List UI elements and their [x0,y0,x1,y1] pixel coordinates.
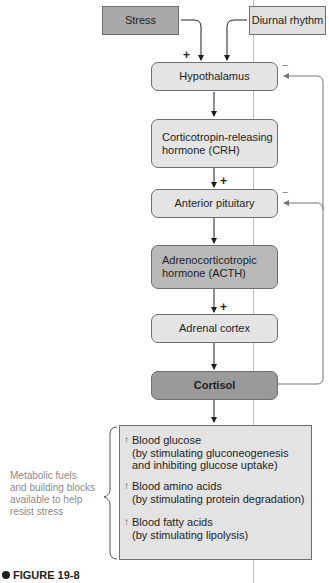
figure-label: FIGURE 19-8 [2,569,80,581]
side-note-line: Metabolic fuels [10,470,115,482]
side-note-line: available to help [10,494,115,506]
side-note-line: and building blocks [10,482,115,494]
bullet-icon [2,571,10,579]
side-note-line: resist stress [10,506,115,518]
figure-number: FIGURE 19-8 [13,569,80,581]
side-note: Metabolic fuels and building blocks avai… [10,470,115,518]
